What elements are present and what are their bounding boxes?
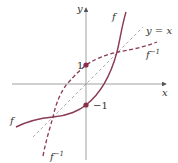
identity-label: y = x <box>145 25 172 36</box>
inverse-function-figure: y x f y = x f−1 1 −1 f f−1 <box>0 0 178 163</box>
f-inverse-curve <box>43 42 157 156</box>
graph-canvas: y x f y = x f−1 1 −1 f f−1 <box>0 0 178 163</box>
y-axis-label: y <box>76 3 83 14</box>
f-inverse-label-right: f−1 <box>145 48 160 60</box>
point-0-neg1 <box>83 102 88 107</box>
f-label-left: f <box>9 115 16 126</box>
f-label-top: f <box>111 11 118 22</box>
f-curve <box>16 12 126 127</box>
point-label-neg1: −1 <box>93 100 108 111</box>
point-label-1: 1 <box>77 60 83 71</box>
identity-line <box>33 27 143 137</box>
x-axis-label: x <box>162 87 168 98</box>
point-0-1 <box>83 62 88 67</box>
f-inverse-label-bottom: f−1 <box>49 150 64 162</box>
